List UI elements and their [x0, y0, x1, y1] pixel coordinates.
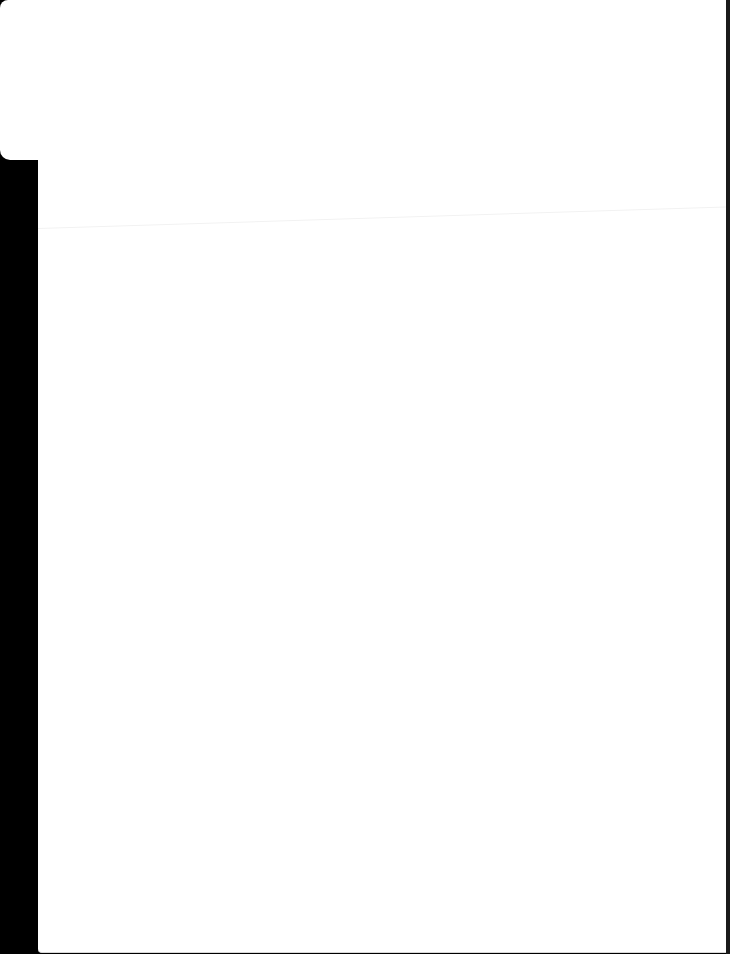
right-edge: [726, 0, 730, 954]
blank-page-surface: [38, 110, 726, 953]
